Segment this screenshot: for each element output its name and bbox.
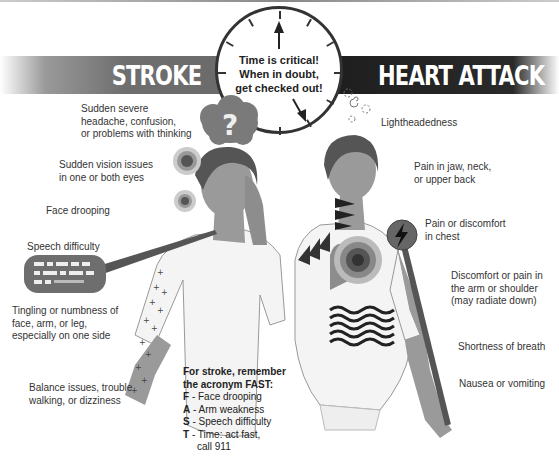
svg-text:+: + [157, 268, 164, 277]
thought-cloud-icon: ? [200, 95, 258, 145]
fast-header-line-1: For stroke, remember [183, 366, 286, 379]
svg-text:+: + [141, 376, 148, 385]
svg-text:+: + [145, 350, 152, 359]
heart-symptom-nausea: Nausea or vomiting [459, 378, 545, 391]
svg-text:+: + [151, 324, 158, 333]
stroke-symptom-face-drooping: Face drooping [46, 205, 110, 218]
fast-header-line-2: the acronym FAST: [183, 379, 286, 392]
heart-symptom-shortness-of-breath: Shortness of breath [458, 341, 545, 354]
stroke-symptom-speech: Speech difficulty [27, 241, 100, 254]
heart-symptom-jaw-neck-back: Pain in jaw, neck, or upper back [414, 161, 491, 186]
svg-text:+: + [157, 306, 164, 315]
clock-line-2: When in doubt, [218, 67, 340, 81]
fast-item-a: A - Arm weakness [183, 404, 286, 417]
heart-attack-title: HEART ATTACK [378, 60, 544, 91]
svg-text:+: + [153, 283, 160, 292]
stroke-symptom-tingling: Tingling or numbness of face, arm, or le… [12, 305, 118, 343]
svg-text:+: + [161, 288, 168, 297]
vision-rings-icon [173, 147, 201, 212]
clock-message: Time is critical! When in doubt, get che… [218, 53, 340, 95]
clock-line-1: Time is critical! [218, 53, 340, 67]
svg-text:+: + [143, 316, 150, 325]
stroke-symptom-vision: Sudden vision issues in one or both eyes [59, 159, 153, 184]
svg-text:+: + [135, 363, 142, 372]
svg-text:+: + [139, 338, 146, 347]
stroke-banner: STROKE [0, 56, 250, 94]
fast-item-t-continuation: call 911 [183, 441, 286, 454]
stroke-symptom-headache: Sudden severe headache, confusion, or pr… [81, 103, 192, 141]
svg-text:?: ? [222, 109, 238, 142]
heart-symptom-arm-shoulder: Discomfort or pain in the arm or shoulde… [451, 270, 543, 308]
fast-item-s: S - Speech difficulty [183, 416, 286, 429]
fast-item-t: T - Time: act fast, [183, 429, 286, 442]
fast-item-f: F - Face drooping [183, 391, 286, 404]
chest-pain-target-icon [334, 236, 382, 284]
fast-acronym-box: For stroke, remember the acronym FAST: F… [183, 366, 286, 454]
svg-text:+: + [149, 298, 156, 307]
stroke-symptom-balance: Balance issues, trouble walking, or dizz… [29, 382, 132, 407]
clock-line-3: get checked out! [218, 81, 340, 95]
stroke-title: STROKE [112, 60, 202, 91]
speech-bubble-icon [24, 255, 108, 295]
top-border [0, 0, 559, 2]
heart-symptom-chest: Pain or discomfort in chest [425, 218, 506, 243]
heart-symptom-lightheadedness: Lightheadedness [381, 117, 457, 130]
